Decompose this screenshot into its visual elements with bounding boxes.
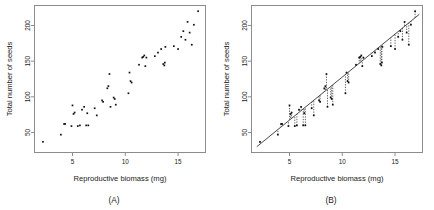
panel-caption-b: (B) — [325, 195, 336, 205]
data-point — [325, 85, 327, 87]
data-point — [346, 72, 348, 74]
data-point — [143, 55, 145, 57]
data-point — [311, 107, 313, 109]
figure-container: 50100150200 51015 Reproductive biomass (… — [0, 0, 434, 210]
data-point — [85, 125, 87, 127]
data-point — [115, 104, 117, 106]
data-point — [410, 24, 412, 26]
data-point — [185, 39, 187, 41]
data-point — [180, 36, 182, 38]
data-point — [381, 62, 383, 64]
data-point — [377, 48, 379, 50]
data-point — [193, 24, 195, 26]
data-point — [87, 125, 89, 127]
panel-a: 50100150200 51015 Reproductive biomass (… — [0, 0, 217, 210]
data-point — [173, 45, 175, 47]
data-point — [94, 107, 96, 109]
data-point — [96, 115, 98, 117]
data-point — [110, 106, 112, 108]
y-tick-label: 50 — [24, 129, 31, 137]
data-point — [79, 125, 81, 127]
data-point — [191, 44, 193, 46]
data-point — [182, 30, 184, 32]
data-point — [42, 141, 44, 143]
data-point — [404, 21, 406, 23]
x-tick-label: 10 — [339, 158, 347, 165]
data-point — [348, 82, 350, 84]
y-tick-label: 200 — [241, 20, 248, 31]
data-point — [402, 39, 404, 41]
data-point — [102, 101, 104, 103]
data-point — [296, 125, 298, 127]
data-point — [397, 36, 399, 38]
data-point — [331, 98, 333, 100]
data-points-a — [42, 10, 199, 142]
data-point — [281, 123, 283, 125]
data-point — [360, 55, 362, 57]
data-point — [259, 141, 261, 143]
x-tick-label: 5 — [288, 158, 292, 165]
data-point — [154, 55, 156, 57]
data-point — [128, 92, 130, 94]
data-point — [81, 109, 83, 111]
data-point — [72, 105, 74, 107]
data-point — [144, 65, 146, 67]
plot-frame-a — [35, 6, 206, 153]
x-tick-label: 15 — [175, 158, 183, 165]
data-point — [374, 52, 376, 54]
y-tick-label: 100 — [241, 91, 248, 102]
data-point — [319, 101, 321, 103]
residual-lines-b — [260, 11, 415, 144]
data-point — [289, 105, 291, 107]
data-point — [361, 65, 363, 67]
y-axis-ticks-b: 50100150200 — [241, 20, 251, 136]
data-point — [114, 98, 116, 100]
data-point — [131, 82, 133, 84]
data-point — [371, 55, 373, 57]
data-point — [60, 134, 62, 136]
y-tick-label: 150 — [241, 55, 248, 66]
data-point — [160, 48, 162, 50]
data-points-b — [259, 10, 416, 142]
data-point — [394, 48, 396, 50]
data-point — [298, 109, 300, 111]
data-point — [86, 112, 88, 114]
x-tick-label: 5 — [71, 158, 75, 165]
y-tick-label: 200 — [24, 20, 31, 31]
data-point — [313, 115, 315, 117]
data-point — [64, 123, 66, 125]
data-point — [345, 92, 347, 94]
data-point — [326, 73, 328, 75]
data-point — [129, 72, 131, 74]
regression-trend-line — [257, 14, 420, 146]
data-point — [197, 10, 199, 12]
data-point — [187, 21, 189, 23]
x-tick-label: 10 — [122, 158, 130, 165]
data-point — [165, 46, 167, 48]
data-point — [304, 125, 306, 127]
panel-caption-a: (A) — [108, 195, 119, 205]
data-point — [138, 64, 140, 66]
y-tick-label: 50 — [241, 129, 248, 137]
y-axis-title-b: Total number of seeds — [222, 41, 231, 116]
data-point — [390, 45, 392, 47]
data-point — [177, 48, 179, 50]
data-point — [83, 106, 85, 108]
data-point — [108, 85, 110, 87]
x-tick-label: 15 — [392, 158, 400, 165]
y-tick-label: 150 — [24, 55, 31, 66]
data-point — [300, 106, 302, 108]
data-point — [106, 87, 108, 89]
data-point — [303, 112, 305, 114]
data-point — [288, 125, 290, 127]
y-tick-label: 100 — [24, 91, 31, 102]
data-point — [77, 125, 79, 127]
data-point — [291, 112, 293, 114]
data-point — [332, 104, 334, 106]
data-point — [414, 10, 416, 12]
x-axis-title-b: Reproductive biomass (mg) — [291, 174, 384, 183]
data-point — [382, 46, 384, 48]
data-point — [74, 112, 76, 114]
data-point — [363, 57, 365, 59]
data-point — [355, 64, 357, 66]
